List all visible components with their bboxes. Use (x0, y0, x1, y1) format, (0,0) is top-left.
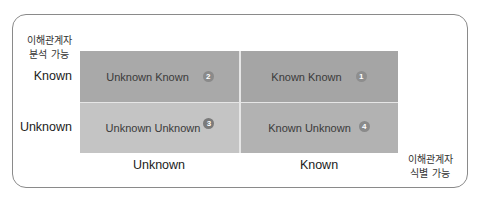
y-axis-title: 이해관계자 분석 가능 (20, 34, 78, 62)
col-label-known: Known (240, 158, 398, 172)
y-axis-title-line1: 이해관계자 (20, 34, 78, 48)
cell-label: Known Known (271, 71, 341, 83)
number-badge-icon: 2 (203, 71, 214, 82)
row-label-known: Known (12, 69, 72, 83)
horizontal-divider (80, 102, 398, 103)
cell-known-known: Known Known 1 (240, 51, 398, 103)
col-label-unknown: Unknown (80, 158, 238, 172)
x-axis-title-line2: 식별 가능 (400, 167, 460, 181)
cell-known-unknown: Known Unknown 4 (240, 103, 398, 153)
cell-unknown-known: Unknown Known 2 (80, 51, 240, 103)
number-badge-icon: 1 (356, 71, 367, 82)
x-axis-title-line1: 이해관계자 (400, 153, 460, 167)
y-axis-title-line2: 분석 가능 (20, 48, 78, 62)
cell-label: Unknown Known (106, 71, 189, 83)
number-badge-icon: 4 (359, 121, 370, 132)
cell-label: Unknown Unknown (106, 122, 201, 134)
number-badge-icon: 3 (203, 118, 214, 129)
x-axis-title: 이해관계자 식별 가능 (400, 153, 460, 181)
row-label-unknown: Unknown (12, 120, 72, 134)
cell-unknown-unknown: Unknown Unknown 3 (80, 103, 240, 153)
matrix-grid: Unknown Known 2 Known Known 1 Unknown Un… (80, 51, 398, 153)
cell-label: Known Unknown (268, 122, 351, 134)
